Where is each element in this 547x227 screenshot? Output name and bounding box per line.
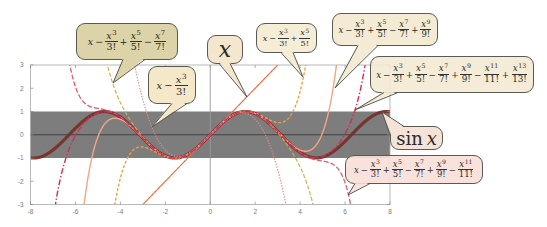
denominator: 5!	[130, 42, 142, 52]
formula: x−x33!+x55!−x77!+x99!−x1111!+x1313!	[376, 64, 528, 84]
denominator: 5!	[299, 39, 310, 48]
variable: x	[176, 74, 182, 85]
exponent: 7	[444, 62, 448, 69]
fraction: x99!	[460, 64, 472, 84]
variable: x	[461, 63, 466, 73]
fraction: x33!	[105, 31, 117, 53]
bubble-taylor-deg11: x−x33!+x55!−x77!+x99!−x1111!	[345, 155, 483, 184]
function-name: sin	[396, 128, 423, 149]
bubble-taylor-deg13: x−x33!+x55!−x77!+x99!−x1111!+x1313!	[370, 56, 534, 93]
variable: x	[339, 25, 344, 35]
x-tick-label: 4	[298, 208, 302, 215]
operator: +	[120, 36, 128, 47]
operator: +	[367, 25, 374, 35]
denominator: 9!	[461, 75, 472, 85]
exponent: 11	[465, 158, 473, 165]
y-tick-label: -1	[18, 154, 24, 161]
exponent: 11	[490, 62, 498, 69]
bubble-sin-x: sinx	[390, 126, 443, 150]
operator: −	[428, 70, 435, 80]
denominator: 5!	[392, 170, 403, 179]
denominator: 9!	[436, 170, 447, 179]
fraction: x55!	[392, 160, 403, 180]
variable: x	[393, 63, 398, 73]
operator: +	[451, 70, 458, 80]
exponent: 3	[399, 62, 403, 69]
operator: +	[502, 70, 509, 80]
variable: x	[421, 19, 426, 29]
bubble-taylor-deg3: x−x33!	[148, 66, 196, 104]
operator: +	[291, 33, 298, 43]
y-tick-label: -3	[18, 201, 24, 208]
denominator: 3!	[354, 30, 365, 39]
formula: sinx	[396, 128, 437, 149]
formula: x	[219, 37, 231, 62]
operator: −	[474, 70, 481, 80]
exponent: 13	[518, 62, 526, 69]
exponent: 7	[405, 18, 409, 25]
operator: −	[383, 70, 390, 80]
variable: x	[415, 159, 420, 169]
fraction: x1111!	[458, 160, 474, 180]
exponent: 5	[305, 28, 309, 34]
fraction: x77!	[438, 64, 450, 84]
denominator: 13!	[511, 75, 528, 85]
operator: −	[449, 165, 456, 175]
fraction: x33!	[370, 160, 381, 180]
fraction: x55!	[415, 64, 427, 84]
x-tick-label: 0	[208, 208, 212, 215]
denominator: 7!	[414, 170, 425, 179]
variable: x	[377, 19, 382, 29]
variable: x	[399, 19, 404, 29]
x-tick-label: -4	[117, 208, 123, 215]
fraction: x1313!	[511, 64, 528, 84]
operator: −	[164, 80, 172, 91]
fraction: x99!	[420, 20, 431, 40]
exponent: 9	[442, 158, 446, 165]
variable: x	[459, 159, 464, 169]
variable: x	[437, 159, 442, 169]
variable: x	[427, 128, 437, 149]
variable: x	[354, 165, 359, 175]
exponent: 5	[398, 158, 402, 165]
fraction: x99!	[436, 160, 447, 180]
denominator: 9!	[420, 30, 431, 39]
fraction: x77!	[154, 31, 166, 53]
denominator: 3!	[105, 42, 117, 52]
denominator: 11!	[458, 170, 474, 179]
variable: x	[485, 63, 490, 73]
x-tick-label: 6	[343, 208, 347, 215]
exponent: 3	[182, 72, 187, 81]
denominator: 5!	[415, 75, 426, 85]
exponent: 9	[427, 18, 431, 25]
variable: x	[156, 80, 162, 91]
operator: +	[411, 25, 418, 35]
exponent: 7	[420, 158, 424, 165]
y-tick-label: 1	[20, 108, 24, 115]
denominator: 7!	[438, 75, 449, 85]
exponent: 3	[376, 158, 380, 165]
bubble-taylor-deg7: x−x33!+x55!−x77!	[76, 23, 178, 60]
operator: −	[269, 33, 276, 43]
exponent: 3	[112, 29, 116, 37]
x-tick-label: 8	[388, 208, 392, 215]
bubble-taylor-deg9: x−x33!+x55!−x77!+x99!	[332, 13, 438, 46]
operator: +	[406, 70, 413, 80]
exponent: 7	[161, 29, 165, 37]
operator: −	[405, 165, 412, 175]
exponent: 5	[136, 29, 140, 37]
denominator: 3!	[392, 75, 403, 85]
operator: +	[383, 165, 390, 175]
y-tick-label: -2	[18, 178, 24, 185]
variable: x	[155, 30, 160, 41]
y-tick-label: 2	[20, 85, 24, 92]
numerator: x3	[278, 28, 289, 38]
variable: x	[513, 63, 518, 73]
operator: −	[361, 165, 368, 175]
operator: −	[345, 25, 352, 35]
variable: x	[106, 30, 111, 41]
variable: x	[393, 159, 398, 169]
denominator: 3!	[370, 170, 381, 179]
variable: x	[279, 27, 284, 37]
fraction: x77!	[398, 20, 409, 40]
